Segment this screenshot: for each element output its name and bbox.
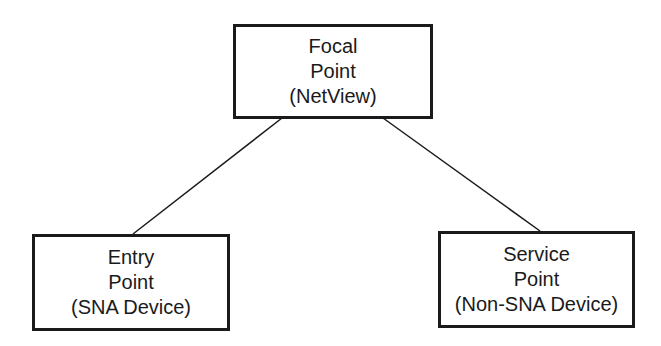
node-label-line: Point: [108, 270, 154, 295]
node-label-line: Point: [310, 59, 356, 84]
entry-point-node: Entry Point (SNA Device): [32, 234, 230, 331]
node-label-line: Point: [514, 267, 560, 292]
edge-focal-entry: [133, 118, 282, 234]
node-label-line: Service: [503, 242, 570, 267]
node-label-line: Entry: [108, 245, 155, 270]
node-label-line: (Non-SNA Device): [455, 292, 618, 317]
edge-focal-service: [383, 118, 540, 231]
node-label-line: Focal: [309, 34, 358, 59]
service-point-node: Service Point (Non-SNA Device): [438, 231, 635, 328]
node-label-line: (SNA Device): [71, 295, 191, 320]
node-label-line: (NetView): [289, 84, 376, 109]
focal-point-node: Focal Point (NetView): [233, 24, 433, 119]
